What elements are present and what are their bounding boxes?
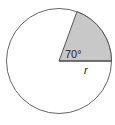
circle-sector-diagram: 70° r	[0, 0, 115, 125]
angle-label: 70°	[65, 48, 82, 60]
